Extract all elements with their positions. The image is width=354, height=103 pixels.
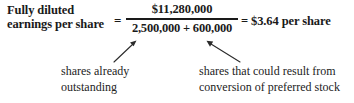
- annotation-left-caption-line2: outstanding: [61, 79, 129, 95]
- equals-sign-first: =: [114, 13, 121, 29]
- formula-left-label: Fully diluted earnings per share: [7, 3, 111, 31]
- formula-left-label-line1: Fully diluted: [7, 3, 74, 17]
- arrow-up-left-icon: [207, 41, 241, 62]
- annotation-right-caption: shares that could result from conversion…: [199, 63, 340, 95]
- fraction-denominator: 2,500,000 + 600,000: [126, 20, 238, 36]
- annotation-left-caption-line1: shares already: [61, 63, 129, 79]
- formula-result: = $3.64 per share: [241, 13, 331, 29]
- annotation-left-caption: shares already outstanding: [61, 63, 129, 95]
- formula-left-label-line2: earnings per share: [7, 17, 111, 31]
- annotation-right-caption-line1: shares that could result from: [199, 63, 340, 79]
- formula-equation: Fully diluted earnings per share = $11,2…: [0, 0, 354, 40]
- fraction: $11,280,000 2,500,000 + 600,000: [126, 2, 238, 36]
- arrow-up-right-icon: [114, 41, 137, 63]
- formula-figure: Fully diluted earnings per share = $11,2…: [0, 0, 354, 103]
- annotation-right-caption-line2: conversion of preferred stock: [199, 79, 340, 95]
- fraction-numerator: $11,280,000: [126, 2, 238, 18]
